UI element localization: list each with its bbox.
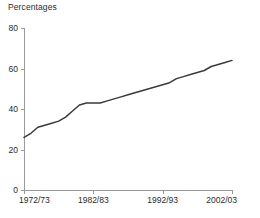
- x-tick-group: 1972/731982/831992/932002/03: [19, 190, 237, 205]
- series-line-percentages: [24, 60, 232, 137]
- chart-canvas: 020406080 1972/731982/831992/932002/03: [0, 0, 260, 218]
- x-tick-label: 2002/03: [206, 195, 237, 205]
- y-tick-label: 20: [9, 145, 19, 155]
- y-tick-label: 60: [9, 64, 19, 74]
- y-tick-label: 40: [9, 104, 19, 114]
- line-chart: Percentages 020406080 1972/731982/831992…: [0, 0, 260, 218]
- y-axis: 020406080: [9, 23, 25, 195]
- x-tick-label: 1982/83: [78, 195, 109, 205]
- y-tick-label: 80: [9, 23, 19, 33]
- x-tick-label: 1992/93: [147, 195, 178, 205]
- x-tick-label: 1972/73: [19, 195, 50, 205]
- y-tick-label: 0: [13, 185, 18, 195]
- x-axis: 1972/731982/831992/932002/03: [19, 190, 237, 205]
- y-tick-group: 020406080: [9, 23, 24, 195]
